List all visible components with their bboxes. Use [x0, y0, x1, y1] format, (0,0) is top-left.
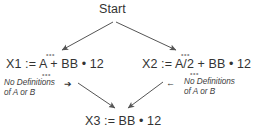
annotation-right-line1: No Definitions [184, 77, 235, 87]
annotation-left-line2: of A or B [4, 88, 55, 98]
edge-x1-to-x3 [78, 83, 115, 108]
node-x1: X1 := A + BB • 12 [6, 57, 104, 71]
node-x3: X3 := BB • 12 [85, 114, 161, 128]
annotation-left-line1: No Definitions [4, 78, 55, 88]
ellipsis-mark-x1: ••• [46, 51, 55, 58]
annotation-right-line2: of A or B [184, 87, 235, 97]
node-x2: X2 := A/2 + BB • 12 [142, 57, 251, 71]
annotation-left-note: No Definitions of A or B [4, 78, 55, 97]
diagram-canvas: Start X1 := A + BB • 12 ••• X2 := A/2 + … [0, 0, 254, 131]
ellipsis-mark-x2: ••• [181, 51, 190, 58]
ellipsis-mark-left-note: ••• [42, 71, 51, 78]
edge-x2-to-x3 [128, 82, 163, 108]
right-arrow-icon: ➔ [64, 80, 72, 89]
edge-start-to-x1 [62, 22, 113, 50]
ellipsis-mark-right-note: ••• [190, 70, 199, 77]
node-start: Start [99, 2, 126, 16]
edge-start-to-x2 [116, 22, 176, 50]
left-arrow-icon: ← [166, 79, 175, 88]
annotation-right-note: No Definitions of A or B [184, 77, 235, 96]
